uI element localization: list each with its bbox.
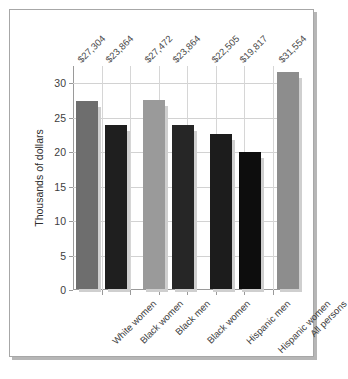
bar[interactable] (239, 152, 261, 289)
y-axis-title-label: Thousands of dollars (33, 129, 45, 226)
chart-figure: Thousands of dollars 051015202530 $27,30… (9, 9, 314, 357)
y-tick-label: 20 (54, 146, 66, 158)
y-tick-label: 0 (60, 284, 66, 296)
plot-area: 051015202530 $27,304$23,864$27,472$23,86… (73, 66, 301, 290)
bar[interactable] (172, 125, 194, 289)
y-tick-mark (69, 187, 73, 188)
x-tick-mark (273, 290, 274, 295)
y-tick-label: 5 (60, 250, 66, 262)
y-tick-mark (69, 83, 73, 84)
y-tick-label: 10 (54, 215, 66, 227)
y-axis-title: Thousands of dollars (32, 66, 46, 290)
gridline-vertical (102, 66, 103, 290)
y-tick-mark (69, 290, 73, 291)
bar[interactable] (277, 72, 299, 289)
gridline-vertical (130, 66, 131, 290)
bar-value-label: $31,554 (276, 33, 308, 65)
x-tick-mark (130, 290, 131, 295)
y-tick-label: 30 (54, 77, 66, 89)
y-tick-mark (69, 256, 73, 257)
x-tick-mark (102, 290, 103, 295)
bar-value-label: $19,817 (238, 33, 270, 65)
y-tick-label: 25 (54, 112, 66, 124)
bar-value-label: $27,472 (142, 33, 174, 65)
y-tick-mark (69, 118, 73, 119)
y-tick-label: 15 (54, 181, 66, 193)
bar[interactable] (76, 101, 98, 289)
gridline-vertical (273, 66, 274, 290)
bar-value-label: $22,505 (209, 33, 241, 65)
y-tick-mark (69, 152, 73, 153)
bar-value-label: $23,864 (104, 33, 136, 65)
y-tick-mark (69, 221, 73, 222)
bar[interactable] (210, 134, 232, 289)
bar-value-label: $23,864 (171, 33, 203, 65)
bar[interactable] (143, 100, 165, 289)
bar-value-label: $27,304 (75, 33, 107, 65)
bar[interactable] (105, 125, 127, 289)
